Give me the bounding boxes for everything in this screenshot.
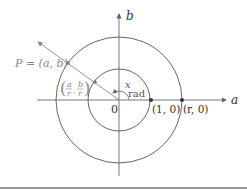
svg-text:a: a — [67, 80, 72, 89]
svg-text:r: r — [78, 89, 83, 98]
p-label: P = (a, b) — [14, 57, 68, 70]
point-r-zero — [180, 98, 184, 102]
point-one-zero — [149, 98, 153, 102]
point-unit — [93, 80, 97, 84]
angle-unit-label: rad — [128, 88, 146, 99]
angle-arc — [113, 91, 129, 100]
a-axis-label: a — [231, 93, 238, 107]
svg-text:,: , — [73, 86, 76, 95]
r-zero-label: (r, 0) — [183, 103, 208, 115]
svg-text:): ) — [84, 79, 90, 98]
origin-label: 0 — [111, 103, 118, 116]
one-zero-label: (1, 0) — [152, 103, 180, 115]
unit-point-label: ( a r , b r ) — [60, 79, 90, 98]
b-axis-label: b — [126, 9, 134, 23]
svg-text:b: b — [78, 80, 83, 89]
svg-text:r: r — [67, 89, 72, 98]
svg-text:(: ( — [60, 79, 66, 98]
polar-diagram: b a 0 P = (a, b) ( a r , b r ) x rad (1,… — [0, 0, 247, 190]
